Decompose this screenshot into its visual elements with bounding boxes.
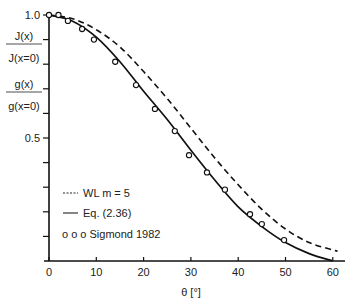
svg-text:J(x): J(x) [15,30,33,42]
x-axis-label: θ [°] [181,286,201,298]
svg-text:g(x): g(x) [15,78,34,90]
x-tick-label: 10 [90,266,102,278]
chart: 01020304050601.00.5 J(x)J(x=0)g(x)g(x=0)… [0,0,355,306]
svg-text:J(x=0): J(x=0) [9,52,40,64]
plot-series [46,12,337,261]
legend-label: Eq. (2.36) [83,207,131,219]
x-tick-label: 30 [185,266,197,278]
legend: WL m = 5Eq. (2.36)o o o Sigmond 1982 [62,187,160,240]
x-tick-label: 50 [279,266,291,278]
x-tick-label: 40 [232,266,244,278]
legend-label: WL m = 5 [83,187,130,199]
y-axis-label: J(x)J(x=0)g(x)g(x=0) [6,30,42,112]
y-tick-label: 1.0 [25,9,40,21]
svg-text:g(x=0): g(x=0) [8,100,40,112]
legend-label: o o o Sigmond 1982 [62,228,160,240]
x-tick-label: 60 [327,266,339,278]
eq-2-36-solid-curve [49,15,333,261]
x-tick-label: 0 [46,266,52,278]
x-tick-label: 20 [137,266,149,278]
axes [44,12,345,261]
y-tick-label: 0.5 [25,132,40,144]
